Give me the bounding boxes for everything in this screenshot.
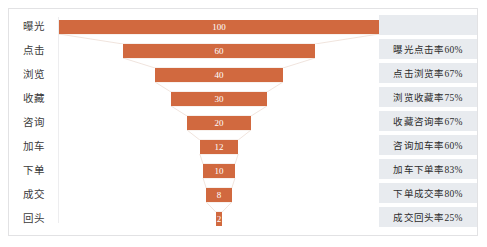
category-label-9: 回头 (9, 213, 58, 225)
funnel-connector-2 (59, 58, 379, 68)
conversion-rate-band-1[interactable]: 曝光点击率60% (379, 39, 477, 59)
funnel-connector-3 (59, 82, 379, 92)
funnel-bar-9[interactable]: 2 (216, 212, 222, 226)
category-label-1: 曝光 (9, 21, 58, 33)
conversion-rate-band-5[interactable]: 咨询加车率60% (379, 135, 477, 155)
conversion-rate-panel: 曝光点击率60%点击浏览率67%浏览收藏率75%收藏咨询率67%咨询加车率60%… (379, 15, 477, 231)
conversion-rate-band-6[interactable]: 加车下单率83% (379, 159, 477, 179)
category-label-5: 咨询 (9, 117, 58, 129)
conversion-rate-band-4[interactable]: 收藏咨询率67% (379, 111, 477, 131)
funnel-bar-5[interactable]: 20 (187, 116, 251, 130)
funnel-chart-frame: 曝光点击浏览收藏咨询加车下单成交回头 10060403020121082 曝光点… (8, 8, 478, 236)
category-label-3: 浏览 (9, 69, 58, 81)
conversion-rate-band-7[interactable]: 下单成交率80% (379, 183, 477, 203)
funnel-connector-6 (59, 154, 379, 164)
funnel-bar-6[interactable]: 12 (200, 140, 238, 154)
category-label-2: 点击 (9, 45, 58, 57)
funnel-connector-7 (59, 178, 379, 188)
funnel-bar-1[interactable]: 100 (59, 20, 379, 34)
funnel-bar-8[interactable]: 8 (206, 188, 232, 202)
funnel-connector-1 (59, 34, 379, 44)
conversion-rate-band-3[interactable]: 浏览收藏率75% (379, 87, 477, 107)
category-label-8: 成交 (9, 189, 58, 201)
category-axis: 曝光点击浏览收藏咨询加车下单成交回头 (9, 15, 58, 231)
category-label-7: 下单 (9, 165, 58, 177)
funnel-plot-area: 10060403020121082 (59, 15, 379, 231)
funnel-bar-2[interactable]: 60 (123, 44, 315, 58)
category-label-6: 加车 (9, 141, 58, 153)
conversion-rate-band-2[interactable]: 点击浏览率67% (379, 63, 477, 83)
conversion-rate-band-8[interactable]: 成交回头率25% (379, 207, 477, 227)
rate-band-spacer (379, 15, 477, 35)
funnel-bar-4[interactable]: 30 (171, 92, 267, 106)
category-label-4: 收藏 (9, 93, 58, 105)
funnel-connector-4 (59, 106, 379, 116)
funnel-bar-3[interactable]: 40 (155, 68, 283, 82)
funnel-connector-5 (59, 130, 379, 140)
funnel-connector-8 (59, 202, 379, 212)
funnel-bar-7[interactable]: 10 (203, 164, 235, 178)
